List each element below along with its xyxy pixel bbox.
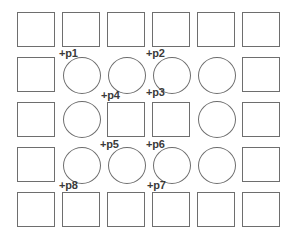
- point-label-p1: +p1: [59, 48, 78, 59]
- grid-square-r3-c4: [152, 102, 190, 137]
- diagram-canvas: +p1 +p2 +p3 +p4 +p5 +p6 +p7 +p8: [0, 0, 295, 241]
- point-label-p2: +p2: [146, 48, 165, 59]
- grid-square-r5-c4: [152, 192, 190, 227]
- grid-square-r5-c3: [107, 192, 145, 227]
- grid-square-r5-c2: [62, 192, 100, 227]
- point-label-p8: +p8: [59, 180, 78, 191]
- grid-circle-r3-c5: [198, 101, 236, 138]
- grid-square-r1-c1: [17, 12, 55, 47]
- grid-circle-r3-c2: [63, 101, 101, 138]
- grid-square-r1-c4: [152, 12, 190, 47]
- grid-square-r2-c1: [17, 57, 55, 92]
- grid-square-r5-c6: [242, 192, 280, 227]
- grid-circle-r2-c5: [198, 57, 236, 94]
- point-label-p3: +p3: [146, 87, 165, 98]
- grid-square-r4-c1: [17, 147, 55, 182]
- point-label-p5: +p5: [100, 139, 119, 150]
- grid-square-r1-c2: [62, 12, 100, 47]
- point-label-p7: +p7: [147, 180, 166, 191]
- grid-circle-r4-c5: [198, 147, 236, 184]
- grid-square-r5-c5: [197, 192, 235, 227]
- grid-square-r4-c6: [242, 147, 280, 182]
- grid-circle-r4-c3: [108, 147, 146, 184]
- grid-square-r1-c5: [197, 12, 235, 47]
- grid-square-r2-c6: [242, 57, 280, 92]
- grid-square-r1-c6: [242, 12, 280, 47]
- point-label-p4: +p4: [101, 90, 120, 101]
- grid-square-r3-c3: [107, 102, 145, 137]
- point-label-p6: +p6: [146, 139, 165, 150]
- grid-square-r5-c1: [17, 192, 55, 227]
- grid-square-r3-c1: [17, 102, 55, 137]
- grid-square-r3-c6: [242, 102, 280, 137]
- grid-square-r1-c3: [107, 12, 145, 47]
- grid-circle-r2-c2: [63, 57, 101, 94]
